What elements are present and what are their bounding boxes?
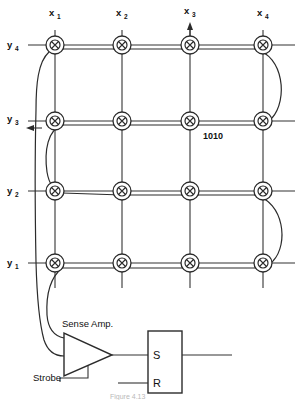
row-sub-y3: 3	[15, 119, 19, 126]
column-label-x2: x	[116, 7, 122, 18]
core-x3-y2	[181, 182, 199, 200]
core-x2-y4	[113, 36, 131, 54]
column-sub-x3: 3	[192, 11, 196, 18]
core-x2-y1	[113, 254, 131, 272]
core-x1-y2	[46, 182, 64, 200]
core-x3-y3	[181, 112, 199, 130]
sense-line	[35, 49, 282, 356]
column-sub-x4: 4	[265, 13, 269, 20]
core-x2-y3	[113, 112, 131, 130]
core-memory-diagram: x 1 x 2 x 3 x 4 y 4 y 3 y 2 y 1 1010 Sen…	[0, 0, 303, 400]
strobe-label: Strobe	[33, 372, 61, 383]
core-x4-y2	[254, 182, 272, 200]
row-sub-y4: 4	[15, 45, 19, 52]
core-x1-y4	[46, 36, 64, 54]
row-label-y4: y	[7, 39, 13, 50]
core-x4-y4	[254, 36, 272, 54]
column-sub-x2: 2	[124, 13, 128, 20]
column-label-x3: x	[184, 5, 190, 16]
core-x1-y3	[46, 112, 64, 130]
core-x4-y3	[254, 112, 272, 130]
row-sub-y1: 1	[15, 263, 19, 270]
sense-amp-label: Sense Amp.	[62, 318, 113, 329]
sense-amplifier: Sense Amp.	[62, 318, 148, 376]
core-x4-y1	[254, 254, 272, 272]
x3-arrow-head	[187, 22, 193, 30]
row-label-y3: y	[7, 113, 13, 124]
sense-line-row-y2	[62, 193, 255, 195]
figure-caption: Figure 4.13	[110, 393, 146, 400]
sr-flipflop: S R	[118, 331, 232, 393]
core-x2-y2	[113, 182, 131, 200]
stored-data-word: 1010	[203, 131, 223, 141]
sr-set-label: S	[153, 349, 160, 361]
y3-arrow-head	[26, 125, 34, 131]
column-label-x4: x	[257, 7, 263, 18]
core-x3-y4	[181, 36, 199, 54]
row-label-y1: y	[7, 257, 13, 268]
core-array	[46, 36, 272, 272]
row-label-y2: y	[7, 185, 13, 196]
column-label-x1: x	[49, 7, 55, 18]
core-x3-y1	[181, 254, 199, 272]
core-x1-y1	[46, 254, 64, 272]
column-sub-x1: 1	[57, 13, 61, 20]
sense-line-left-return	[35, 52, 64, 356]
x-drive-lines	[55, 30, 263, 288]
row-sub-y2: 2	[15, 191, 19, 198]
y-drive-lines	[28, 45, 295, 263]
core-memory-figure: x 1 x 2 x 3 x 4 y 4 y 3 y 2 y 1 1010 Sen…	[0, 0, 303, 400]
sr-reset-label: R	[153, 377, 161, 389]
